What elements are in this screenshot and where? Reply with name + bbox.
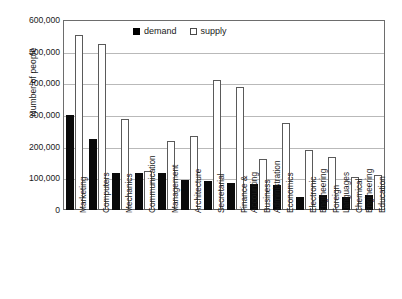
x-axis-tick-label: Marketing [79, 177, 89, 213]
x-axis-tick-label: BusinessAdministration [263, 160, 282, 213]
x-axis-tick-label: Computers [102, 172, 112, 213]
y-axis-tick-label: 300,000 [0, 111, 60, 120]
bar-demand [89, 139, 98, 210]
x-axis-tick-label: Finance &Accounting [240, 172, 259, 213]
y-axis-tick-label: 0 [0, 206, 60, 215]
bar-demand [227, 183, 236, 210]
x-axis-tick-label: ElectronicEngineering [309, 169, 328, 213]
bar-demand [204, 181, 213, 210]
x-axis-tick-label: Management [171, 165, 181, 213]
x-axis-tick-label: ChemicalEngineering [355, 169, 374, 213]
x-axis-tick-label: Mechanics [125, 173, 135, 213]
x-axis-tick-label: Economics [286, 172, 296, 213]
y-axis-tick-label: 600,000 [0, 16, 60, 25]
bar-demand [66, 115, 75, 210]
x-axis-tick-label: ForeignLanguages [332, 172, 351, 213]
x-axis-tick-label: Communication [148, 155, 158, 213]
bar-demand [181, 180, 190, 210]
bar-demand [158, 173, 167, 210]
x-axis-tick-label: Secretarial [217, 173, 227, 213]
y-axis-tick-label: 200,000 [0, 143, 60, 152]
bar-demand [296, 197, 305, 210]
bar-demand [112, 173, 121, 210]
x-axis-tick-labels: MarketingComputersMechanicsCommunication… [63, 212, 385, 299]
y-axis-tick-label: 100,000 [0, 174, 60, 183]
y-axis-tick-label: 400,000 [0, 79, 60, 88]
x-axis-tick-label: Education [378, 176, 388, 213]
y-axis-tick-label: 500,000 [0, 48, 60, 57]
bar-demand [135, 173, 144, 210]
bar-chart: Number of people 600,000500,000400,00030… [0, 0, 402, 299]
x-axis-tick-label: Architecture [194, 169, 204, 213]
